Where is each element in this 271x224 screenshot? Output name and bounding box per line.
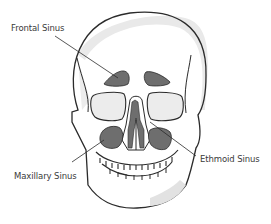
right-orbit — [147, 92, 183, 120]
maxillary-sinus-left — [100, 126, 123, 148]
temporal-line-right — [185, 55, 191, 113]
maxillary-sinus-label: Maxillary Sinus — [14, 171, 77, 181]
mandible-shading — [150, 180, 186, 206]
skull-illustration — [0, 0, 271, 224]
frontal-sinus-left — [104, 71, 129, 86]
frontal-sinus-label: Frontal Sinus — [11, 23, 64, 33]
sinus-diagram: Frontal Sinus Maxillary Sinus Ethmoid Si… — [0, 0, 271, 224]
left-orbit — [91, 92, 126, 120]
ethmoid-sinus-label: Ethmoid Sinus — [200, 154, 260, 164]
maxillary-sinus-right — [149, 128, 172, 150]
maxillary-leader-line — [72, 140, 104, 162]
frontal-leader-line — [55, 36, 118, 78]
teeth-upper — [100, 157, 172, 170]
frontal-sinus-right — [144, 72, 170, 86]
teeth-lower — [110, 168, 166, 180]
